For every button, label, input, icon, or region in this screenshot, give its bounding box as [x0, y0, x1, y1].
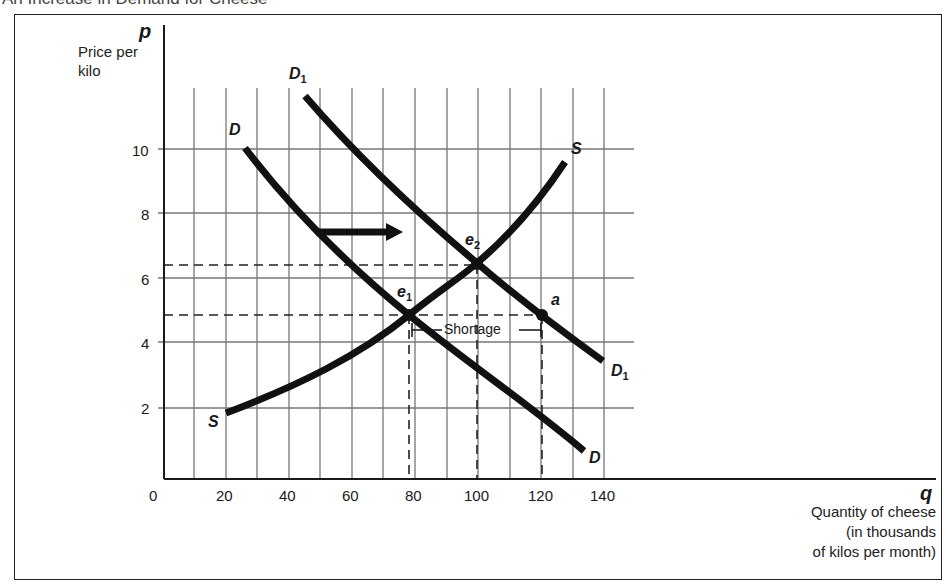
curve-label-d-bottom: D — [589, 449, 601, 467]
axes — [164, 25, 936, 479]
supply-curve-s — [226, 162, 565, 413]
x-tick: 140 — [590, 487, 615, 504]
curve-label-d1-top: D1 — [289, 65, 307, 85]
x-tick: 40 — [279, 487, 296, 504]
x-axis-label-line2: (in thousands — [811, 522, 936, 542]
y-tick: 4 — [141, 335, 149, 352]
point-label-e2: e2 — [465, 231, 480, 251]
x-tick: 120 — [528, 487, 553, 504]
y-tick: 10 — [132, 142, 149, 159]
x-tick: 0 — [149, 487, 157, 504]
d1-subscript: 1 — [623, 370, 629, 382]
y-axis-label-line2: kilo — [78, 61, 138, 80]
x-axis-label-line1: Quantity of cheese — [811, 502, 936, 522]
y-axis-label-line1: Price per — [78, 42, 138, 61]
x-tick: 80 — [405, 487, 422, 504]
y-tick: 6 — [141, 271, 149, 288]
curve-label-d1-bottom: D1 — [611, 362, 629, 382]
y-tick: 8 — [141, 206, 149, 223]
point-label-a: a — [551, 291, 560, 309]
y-axis-label: Price per kilo — [78, 42, 138, 80]
d1-subscript: 1 — [301, 73, 307, 85]
x-axis-label: Quantity of cheese (in thousands of kilo… — [811, 502, 936, 562]
point-label-e1: e1 — [397, 283, 412, 303]
d1-letter: D — [289, 65, 301, 82]
e1-subscript: 1 — [406, 291, 412, 303]
x-tick: 20 — [216, 487, 233, 504]
curve-label-s-bottom: S — [208, 413, 219, 431]
e2-subscript: 2 — [474, 239, 480, 251]
x-tick: 60 — [342, 487, 359, 504]
y-axis-symbol: p — [139, 20, 151, 43]
d1-letter: D — [611, 362, 623, 379]
curve-label-s-top: S — [571, 140, 582, 158]
e2-letter: e — [465, 231, 474, 248]
x-axis-label-line3: of kilos per month) — [811, 542, 936, 562]
x-tick: 100 — [464, 487, 489, 504]
point-e2 — [471, 258, 483, 270]
shortage-label: Shortage — [444, 321, 501, 337]
y-tick: 2 — [141, 400, 149, 417]
curve-label-d-top: D — [229, 121, 241, 139]
point-e1 — [403, 309, 415, 321]
e1-letter: e — [397, 283, 406, 300]
point-a — [536, 309, 548, 321]
